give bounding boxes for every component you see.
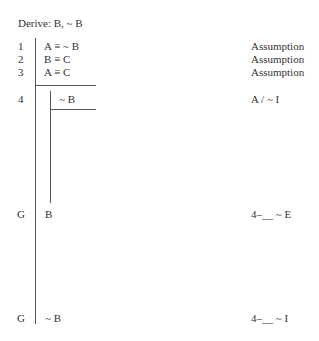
subproof-scope-line	[50, 91, 51, 203]
justification: 4–__ ~ E	[251, 208, 291, 220]
justification: A / ~ I	[251, 93, 279, 105]
justification: 4–__ ~ I	[251, 312, 288, 324]
formula: B ≡ C	[44, 53, 70, 65]
subproof-assumption-bar	[50, 109, 96, 110]
main-scope-line	[35, 38, 36, 324]
formula: ~ B	[59, 93, 75, 105]
formula: A ≡ ~ B	[44, 40, 79, 52]
justification: Assumption	[251, 40, 304, 52]
line-number: 4	[18, 93, 24, 105]
line-number: 1	[18, 40, 24, 52]
justification: Assumption	[251, 53, 304, 65]
justification: Assumption	[251, 66, 304, 78]
formula: ~ B	[45, 312, 61, 324]
line-number: G	[17, 208, 25, 220]
derive-heading: Derive: B, ~ B	[18, 17, 83, 29]
line-number: 2	[18, 53, 24, 65]
line-number: G	[17, 312, 25, 324]
main-assumption-bar	[35, 85, 96, 86]
formula: B	[45, 208, 52, 220]
formula: A ≡ C	[44, 66, 70, 78]
line-number: 3	[18, 66, 24, 78]
